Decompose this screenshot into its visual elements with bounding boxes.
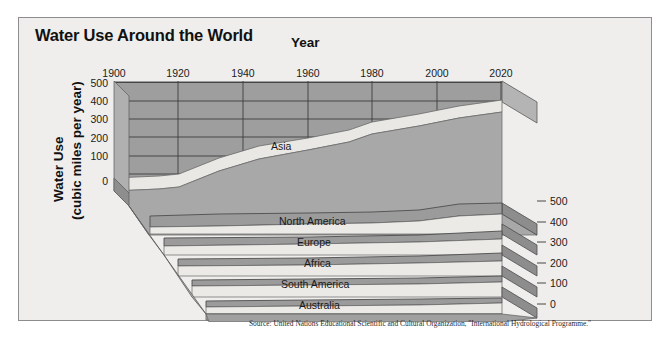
y-tick-left-4: 100 bbox=[74, 150, 108, 162]
y-tick-right-5: 0 bbox=[550, 298, 584, 310]
y-tick-right-3: 200 bbox=[550, 257, 584, 269]
x-tick-1: 1920 bbox=[158, 67, 198, 79]
y-tick-left-5: 0 bbox=[74, 175, 108, 187]
y-tick-left-0: 500 bbox=[74, 77, 108, 89]
x-tick-6: 2020 bbox=[481, 67, 521, 79]
y-tick-right-1: 400 bbox=[550, 216, 584, 228]
y-tick-right-0: 500 bbox=[550, 195, 584, 207]
band-label-south-america: South America bbox=[281, 278, 349, 290]
right-axis-ticks bbox=[537, 201, 546, 304]
left-edge-wall bbox=[114, 81, 129, 206]
band-label-asia: Asia bbox=[271, 140, 291, 152]
band-label-north-america: North America bbox=[279, 215, 346, 227]
y-tick-left-1: 400 bbox=[74, 95, 108, 107]
y-tick-right-4: 100 bbox=[550, 277, 584, 289]
y-tick-left-3: 200 bbox=[74, 132, 108, 144]
y-tick-right-2: 300 bbox=[550, 236, 584, 248]
band-label-australia: Australia bbox=[299, 299, 340, 311]
x-tick-4: 1980 bbox=[352, 67, 392, 79]
chart-card: Water Use Around the World Year Water Us… bbox=[18, 17, 652, 321]
x-tick-5: 2000 bbox=[417, 67, 457, 79]
chart-screenshot: Water Use Around the World Year Water Us… bbox=[0, 0, 671, 341]
x-tick-2: 1940 bbox=[223, 67, 263, 79]
y-tick-left-2: 300 bbox=[74, 113, 108, 125]
band-label-europe: Europe bbox=[297, 236, 331, 248]
band-label-africa: Africa bbox=[304, 257, 331, 269]
x-tick-3: 1960 bbox=[288, 67, 328, 79]
source-note: Source: United Nations Educational Scien… bbox=[249, 319, 591, 328]
